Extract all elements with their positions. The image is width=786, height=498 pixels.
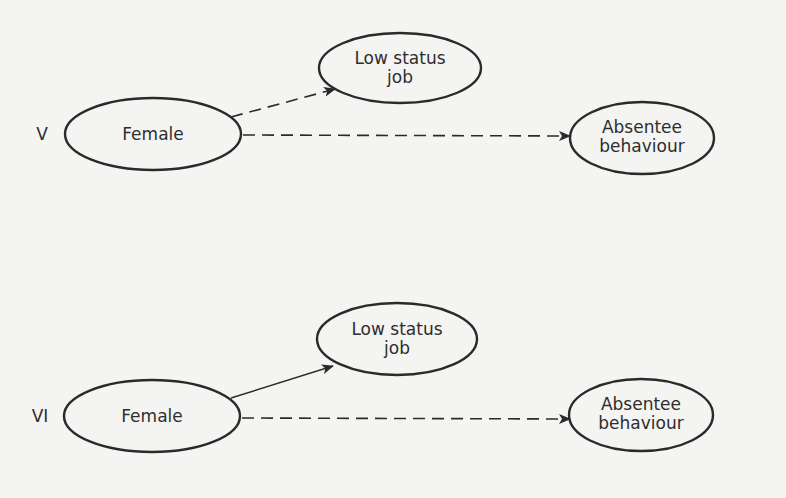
edge-female-to-absentee-vi xyxy=(242,418,570,419)
edge-female-to-job-v xyxy=(231,89,335,117)
edge-female-to-job-vi xyxy=(231,366,333,398)
node-label-absentee-behaviour-vi: Absentee behaviour xyxy=(598,395,683,433)
edge-female-to-absentee-v xyxy=(243,135,570,136)
panel-label-vi: VI xyxy=(32,406,49,426)
node-label-line: Low status xyxy=(354,49,445,68)
node-label-low-status-job-v: Low status job xyxy=(354,49,445,87)
node-label-line: Low status xyxy=(351,320,442,339)
node-label-line: behaviour xyxy=(598,414,683,433)
node-label-low-status-job-vi: Low status job xyxy=(351,320,442,358)
node-label-absentee-behaviour-v: Absentee behaviour xyxy=(599,118,684,156)
node-label-line: job xyxy=(351,339,442,358)
panel-label-v: V xyxy=(36,124,48,144)
node-label-female-v: Female xyxy=(122,125,183,144)
node-label-female-vi: Female xyxy=(121,407,182,426)
node-label-line: behaviour xyxy=(599,137,684,156)
node-label-line: Absentee xyxy=(599,118,684,137)
node-label-line: job xyxy=(354,68,445,87)
node-label-line: Absentee xyxy=(598,395,683,414)
